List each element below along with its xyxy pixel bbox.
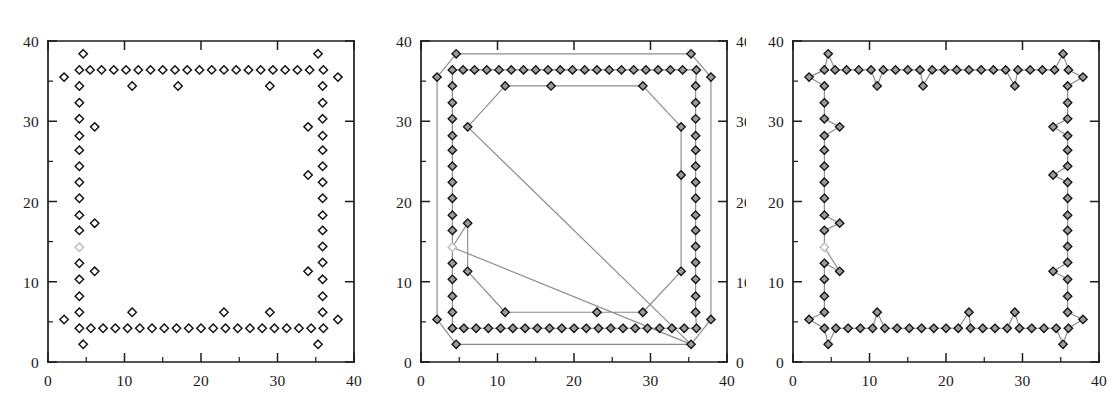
city-marker — [930, 324, 938, 332]
city-marker — [676, 171, 684, 179]
city-marker — [318, 99, 326, 107]
city-marker — [209, 324, 217, 332]
city-marker — [631, 324, 639, 332]
city-marker — [629, 66, 637, 74]
city-marker — [691, 211, 699, 219]
city-marker — [122, 66, 130, 74]
city-marker — [494, 66, 502, 74]
tour-layer — [437, 54, 711, 345]
x-tick-label: 20 — [938, 372, 954, 389]
panel-left: 010203040010203040 — [0, 0, 373, 400]
city-marker — [148, 324, 156, 332]
city-marker — [1064, 242, 1072, 250]
city-marker — [293, 66, 301, 74]
city-marker — [691, 131, 699, 139]
city-marker — [569, 324, 577, 332]
city-marker — [678, 66, 686, 74]
tour-outer-loop — [437, 54, 711, 345]
city-marker — [197, 324, 205, 332]
city-marker — [691, 242, 699, 250]
city-marker — [977, 66, 985, 74]
city-marker — [220, 308, 228, 316]
y-tick-label: 40 — [23, 33, 39, 50]
city-marker — [1003, 324, 1011, 332]
y-tick-label: 20 — [23, 194, 39, 211]
city-marker — [680, 324, 688, 332]
city-marker — [97, 66, 105, 74]
city-marker — [655, 324, 663, 332]
city-marker — [881, 324, 889, 332]
city-marker — [448, 66, 456, 74]
city-marker — [75, 82, 83, 90]
city-marker — [99, 324, 107, 332]
city-marker — [75, 131, 83, 139]
city-marker — [867, 66, 875, 74]
city-marker — [1028, 324, 1036, 332]
city-marker — [844, 324, 852, 332]
city-marker — [448, 324, 456, 332]
city-marker — [1011, 308, 1019, 316]
city-marker — [318, 162, 326, 170]
city-marker — [314, 50, 322, 58]
y-tick-label: 40 — [396, 33, 412, 50]
city-marker — [1049, 171, 1057, 179]
city-marker — [136, 324, 144, 332]
city-marker — [448, 99, 456, 107]
city-marker — [307, 324, 315, 332]
city-marker — [75, 194, 83, 202]
city-marker — [965, 308, 973, 316]
x-tick-label: 40 — [1091, 372, 1107, 389]
city-marker — [448, 211, 456, 219]
city-marker — [940, 66, 948, 74]
city-marker — [134, 66, 142, 74]
city-marker — [1014, 66, 1022, 74]
city-marker — [691, 82, 699, 90]
city-marker — [172, 324, 180, 332]
city-marker — [905, 324, 913, 332]
city-marker — [1064, 115, 1072, 123]
city-marker — [282, 324, 290, 332]
city-marker — [448, 259, 456, 267]
city-marker — [448, 275, 456, 283]
city-marker — [75, 115, 83, 123]
city-marker — [269, 66, 277, 74]
city-marker — [919, 82, 927, 90]
x-tick-label: 20 — [566, 372, 582, 389]
city-marker — [820, 82, 828, 90]
city-marker — [484, 324, 492, 332]
city-marker — [820, 275, 828, 283]
city-marker — [318, 226, 326, 234]
city-marker — [459, 324, 467, 332]
city-marker — [592, 308, 600, 316]
city-marker — [606, 324, 614, 332]
city-marker — [1064, 82, 1072, 90]
y-tick-label: 10 — [396, 274, 412, 291]
y-tick-label: 30 — [768, 113, 784, 130]
city-marker — [295, 324, 303, 332]
city-marker — [448, 115, 456, 123]
city-marker — [918, 324, 926, 332]
city-marker — [79, 340, 87, 348]
x-tick-label: 30 — [270, 372, 286, 389]
city-marker — [318, 82, 326, 90]
panel-right: 010203040010203040 — [745, 0, 1118, 400]
city-marker — [448, 308, 456, 316]
city-marker — [692, 324, 700, 332]
city-marker — [691, 194, 699, 202]
city-marker — [666, 66, 674, 74]
city-marker — [270, 324, 278, 332]
city-marker — [75, 99, 83, 107]
city-marker — [159, 66, 167, 74]
city-marker — [146, 66, 154, 74]
city-marker — [546, 82, 554, 90]
city-marker — [533, 324, 541, 332]
city-marker — [820, 259, 828, 267]
city-marker — [966, 324, 974, 332]
x-tick-label: 0 — [44, 372, 52, 389]
city-marker — [1064, 131, 1072, 139]
city-marker — [318, 194, 326, 202]
city-marker — [128, 82, 136, 90]
city-marker — [508, 324, 516, 332]
city-marker — [691, 308, 699, 316]
y-tick-label-right: 10 — [736, 274, 746, 291]
